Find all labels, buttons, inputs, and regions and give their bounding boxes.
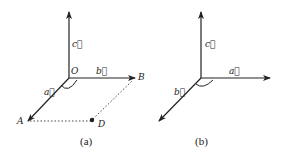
label-c: c⃗ (205, 39, 215, 49)
point-d-dot (90, 118, 94, 122)
diagram-a: c⃗ O b⃗ a⃗ A B D (a) (16, 12, 145, 148)
label-a: a⃗ (229, 66, 240, 76)
label-a: a⃗ (44, 87, 55, 97)
caption-b: (b) (195, 135, 208, 148)
label-c: c⃗ (72, 39, 82, 49)
label-origin-o: O (71, 66, 79, 76)
label-b: b⃗ (96, 66, 107, 76)
diagram-b: c⃗ a⃗ b⃗ (b) (159, 12, 270, 148)
vector-b-arrow (159, 78, 201, 121)
vector-diagrams: c⃗ O b⃗ a⃗ A B D (a) c⃗ a⃗ b⃗ (b) (0, 0, 282, 160)
dotted-line-d-b (93, 80, 133, 119)
label-b: b⃗ (174, 87, 185, 97)
label-point-b: B (137, 72, 145, 82)
vector-a-arrow (28, 78, 69, 121)
caption-a: (a) (80, 135, 93, 148)
label-point-d: D (97, 119, 105, 129)
label-point-a: A (16, 116, 24, 126)
